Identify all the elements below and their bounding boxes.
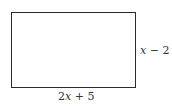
height-constant: 2: [162, 44, 169, 57]
height-label: x − 2: [140, 44, 169, 57]
width-label: 2x + 5: [58, 90, 94, 103]
width-operator: +: [71, 90, 87, 103]
width-constant: 5: [87, 90, 94, 103]
width-coefficient: 2: [58, 90, 65, 103]
height-operator: −: [146, 44, 162, 57]
rectangle: [11, 12, 136, 88]
